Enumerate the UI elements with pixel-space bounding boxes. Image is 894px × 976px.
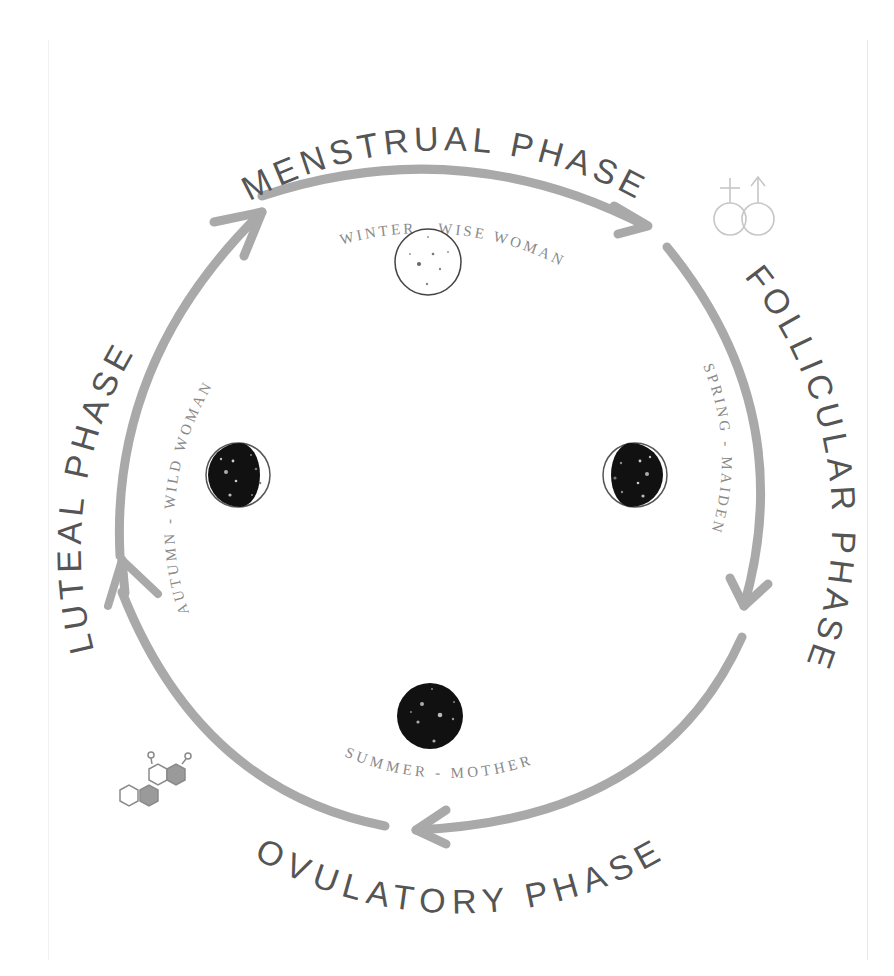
season-label-autumn: AUTUMN - WILD WOMAN <box>161 378 216 617</box>
waning-moon-icon <box>206 443 270 507</box>
arrow-bottom-right <box>416 637 742 844</box>
phase-label-menstrual: MENSTRUAL PHASE <box>235 119 655 207</box>
hormone-molecule-icon <box>120 752 191 806</box>
arrow-left <box>108 212 262 606</box>
season-label-summer: SUMMER - MOTHER <box>343 744 535 781</box>
waxing-moon-icon <box>603 443 667 507</box>
male-female-symbols-icon <box>714 177 774 235</box>
full-moon-icon <box>397 683 463 749</box>
new-moon-outline-icon <box>395 229 461 295</box>
arrow-bottom-left <box>122 592 385 826</box>
cycle-diagram: MENSTRUAL PHASE FOLLICULAR PHASE OVULATO… <box>0 0 894 976</box>
phase-label-ovulatory: OVULATORY PHASE <box>250 830 670 920</box>
season-label-spring: SPRING - MAIDEN <box>700 361 735 537</box>
